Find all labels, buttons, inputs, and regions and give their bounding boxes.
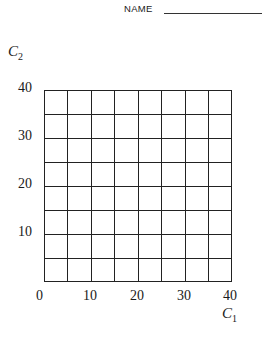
y-axis-label: C2 xyxy=(8,43,23,62)
y-tick-40: 40 xyxy=(18,80,32,96)
x-tick-40: 40 xyxy=(223,288,237,304)
y-tick-10: 10 xyxy=(18,224,32,240)
name-label: NAME xyxy=(124,3,153,14)
y-tick-20: 20 xyxy=(18,176,32,192)
x-tick-20: 20 xyxy=(130,288,144,304)
y-tick-30: 30 xyxy=(18,128,32,144)
x-tick-0: 0 xyxy=(36,288,43,304)
name-blank-line[interactable] xyxy=(164,13,262,14)
x-tick-30: 30 xyxy=(177,288,191,304)
x-axis-label: C1 xyxy=(222,305,237,324)
x-tick-10: 10 xyxy=(83,288,97,304)
graph-grid[interactable] xyxy=(44,90,232,282)
